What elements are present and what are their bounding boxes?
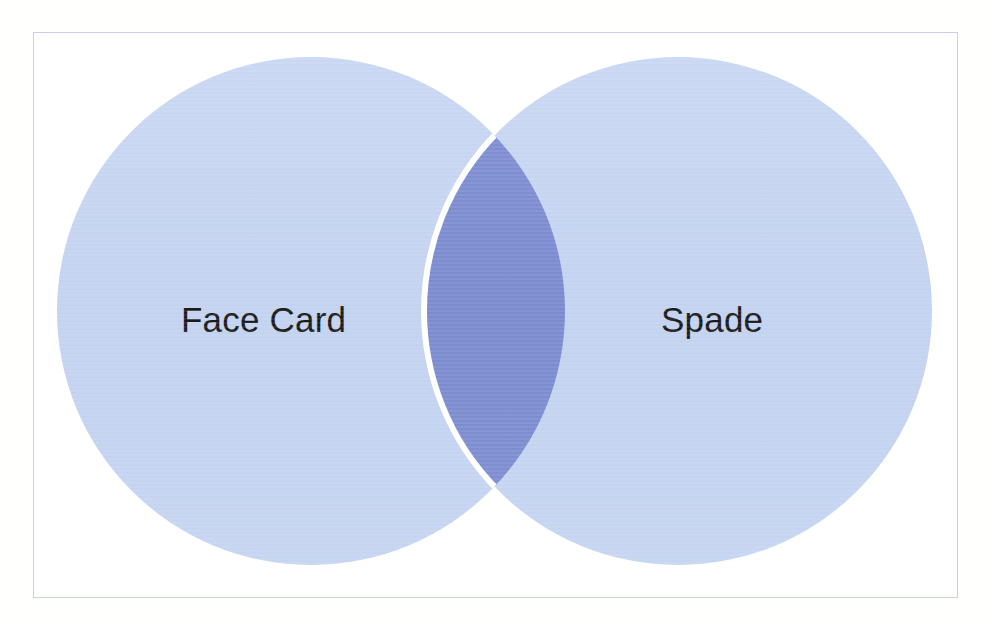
venn-label-spade: Spade [661, 302, 763, 337]
venn-canvas [0, 0, 986, 626]
venn-label-face-card: Face Card [181, 302, 346, 337]
venn-diagram-page: Face Card Spade [0, 0, 986, 626]
